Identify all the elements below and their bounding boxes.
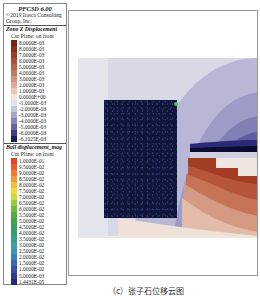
software-title: PFC3D 6.00 (4, 5, 66, 12)
legend-panel: PFC3D 6.00 ©2019 Itasca Consulting Group… (3, 3, 67, 285)
ball-legend-value: 1.4431E-05 (19, 279, 44, 285)
model-viewport[interactable] (68, 10, 258, 276)
ball-legend-list: 1.0000E-019.5000E-029.0000E-028.5000E-02… (4, 158, 66, 285)
zone-legend-value: -6.1025E-03 (19, 136, 46, 142)
ball-assembly-block (104, 100, 177, 218)
zone-color-swatch (11, 136, 17, 142)
ball-section-title: Ball displacement_mag (4, 143, 66, 151)
zone-section-title: Zone Z Displacement (4, 25, 66, 33)
figure-caption: （c）张子石位移云图 (108, 285, 184, 296)
displacement-highlight-dot (174, 102, 178, 106)
zone-legend-row: -6.1025E-03 (4, 136, 66, 142)
ball-legend-row: 1.4431E-05 (4, 279, 66, 285)
copyright-line-2: Group, Inc. (4, 18, 66, 24)
zone-legend-list: 8.0000E-038.0000E-037.0000E-036.0000E-03… (4, 40, 66, 143)
ball-color-swatch (11, 279, 17, 285)
